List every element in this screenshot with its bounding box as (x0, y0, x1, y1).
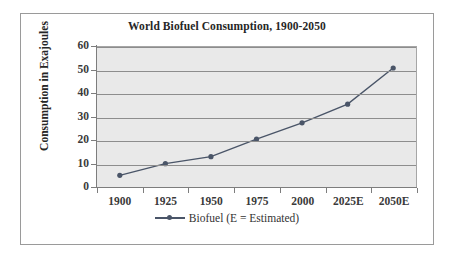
y-axis-tick (91, 46, 97, 47)
data-point (117, 173, 122, 178)
x-axis-tick (97, 188, 98, 193)
x-axis-tick (143, 188, 144, 193)
legend-label-biofuel: Biofuel (E = Estimated) (189, 212, 299, 224)
y-axis-tick (91, 70, 97, 71)
x-axis-line (96, 187, 417, 188)
y-axis-tick-label: 30 (49, 111, 89, 123)
chart-frame: World Biofuel Consumption, 1900-2050 Con… (20, 13, 434, 245)
x-axis-tick-label: 1900 (108, 195, 131, 207)
y-axis-tick (91, 140, 97, 141)
x-axis-tick (417, 188, 418, 193)
legend-marker-icon (155, 213, 185, 223)
x-axis-tick-label: 1925 (154, 195, 177, 207)
x-axis-tick (371, 188, 372, 193)
gridline (97, 71, 416, 72)
data-point (345, 102, 350, 107)
gridline (97, 94, 416, 95)
x-axis-tick-label: 2025E (333, 195, 364, 207)
data-point (299, 120, 304, 125)
chart-legend: Biofuel (E = Estimated) (21, 212, 433, 224)
gridline (97, 165, 416, 166)
x-axis-tick-label: 1950 (200, 195, 223, 207)
x-axis-tick-label: 2000 (291, 195, 314, 207)
x-axis-tick (234, 188, 235, 193)
plot-area (97, 46, 417, 187)
y-axis-tick-label: 40 (49, 87, 89, 99)
x-axis-tick-label: 2050E (379, 195, 410, 207)
y-axis-tick-label: 20 (49, 134, 89, 146)
y-axis-tick (91, 117, 97, 118)
y-axis-tick (91, 164, 97, 165)
y-axis-tick-label: 60 (49, 40, 89, 52)
series-line (120, 68, 393, 175)
x-axis-tick (280, 188, 281, 193)
data-point (208, 154, 213, 159)
x-axis-tick-label: 1975 (246, 195, 269, 207)
x-axis-tick (326, 188, 327, 193)
y-axis-tick-label: 10 (49, 158, 89, 170)
gridline (97, 141, 416, 142)
y-axis-tick-label: 0 (49, 181, 89, 193)
gridline (97, 118, 416, 119)
y-axis-tick-label: 50 (49, 64, 89, 76)
x-axis-tick (188, 188, 189, 193)
y-axis-tick (91, 93, 97, 94)
gridline (97, 47, 416, 48)
y-axis-tick-labels: 0102030405060 (43, 14, 89, 244)
